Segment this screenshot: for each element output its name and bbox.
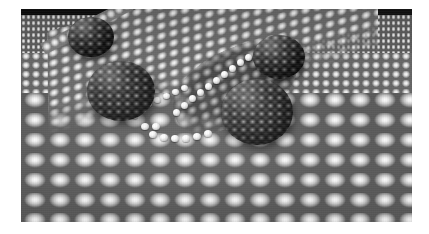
adatom <box>213 77 220 84</box>
adatom <box>229 65 236 72</box>
adatom <box>172 89 179 95</box>
adatom <box>173 109 180 116</box>
adatom <box>237 59 244 66</box>
adatom <box>193 133 201 140</box>
adatom <box>181 85 188 91</box>
figure-title: Molecular adsorbates on a close-packed m… <box>0 21 1 22</box>
adatom <box>204 130 212 137</box>
adatom <box>182 135 190 142</box>
adatom <box>245 54 252 61</box>
molecule-cluster-center-low <box>221 79 293 145</box>
adatom <box>154 97 161 103</box>
adatom <box>152 123 160 130</box>
adatom <box>141 123 149 130</box>
adatom <box>160 134 168 141</box>
adatom <box>189 95 196 102</box>
molecule-cluster-top-right <box>253 35 305 79</box>
render-plate <box>21 9 412 222</box>
figure-container: Molecular adsorbates on a close-packed m… <box>0 0 429 234</box>
adatom <box>181 102 188 109</box>
adatom <box>171 135 179 142</box>
adatom <box>205 83 212 90</box>
adatom <box>221 71 228 78</box>
adatom <box>163 93 170 99</box>
molecule-cluster-top-left <box>68 17 114 57</box>
molecule-cluster-left <box>87 61 155 121</box>
adatom <box>197 89 204 96</box>
adatom <box>149 131 157 138</box>
